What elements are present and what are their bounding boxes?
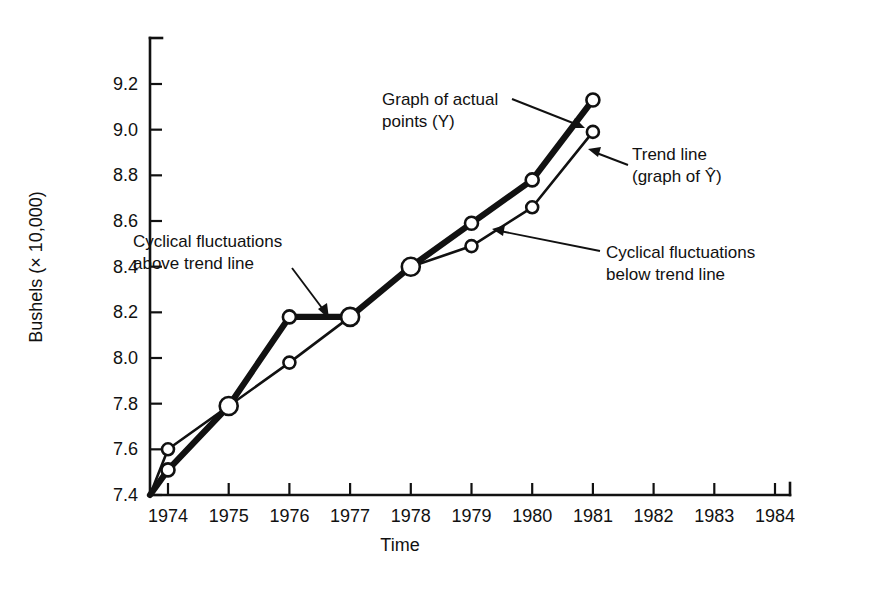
trend-point-marker — [466, 240, 478, 252]
actual-points-series — [150, 100, 593, 495]
trend-point-marker — [587, 126, 599, 138]
annotation-cyclical-above: Cyclical fluctuations above trend line — [133, 232, 329, 319]
annotation-cyclical-below-line1: Cyclical fluctuations — [606, 243, 755, 262]
chart-figure: 7.47.67.88.08.28.48.68.89.09.2 197419751… — [0, 0, 870, 598]
y-axis-title: Bushels (× 10,000) — [26, 191, 46, 343]
x-tick-label: 1981 — [573, 506, 613, 526]
y-tick-label: 8.0 — [113, 348, 138, 368]
x-tick-label: 1977 — [330, 506, 370, 526]
x-tick-label: 1978 — [391, 506, 431, 526]
actual-point-marker — [283, 310, 296, 323]
y-tick-label: 8.2 — [113, 302, 138, 322]
annotation-cyclical-below-leader — [500, 231, 600, 251]
trend-point-marker — [162, 443, 174, 455]
x-axis-title: Time — [380, 535, 419, 555]
y-axis-ticks: 7.47.67.88.08.28.48.68.89.09.2 — [113, 74, 162, 505]
trend-point-marker — [526, 201, 538, 213]
annotation-cyclical-above-line1: Cyclical fluctuations — [133, 232, 282, 251]
annotation-trend-line-line2: (graph of Ŷ) — [632, 167, 722, 186]
x-tick-label: 1984 — [755, 506, 795, 526]
actual-point-marker — [586, 94, 599, 107]
data-series-layer — [150, 94, 599, 496]
annotation-graph-of-actual: Graph of actual points (Y) — [382, 90, 585, 131]
annotation-trend-line-line1: Trend line — [632, 145, 707, 164]
actual-point-marker — [526, 173, 539, 186]
annotation-cyclical-above-leader — [292, 268, 325, 312]
annotation-trend-line-arrowhead — [588, 147, 601, 157]
data-point-markers — [162, 94, 600, 477]
actual-point-marker — [341, 308, 359, 326]
x-tick-label: 1975 — [209, 506, 249, 526]
annotation-trend-line-leader — [594, 152, 628, 165]
annotation-cyclical-above-line2: above trend line — [133, 254, 254, 273]
y-tick-label: 7.4 — [113, 485, 138, 505]
actual-point-marker — [220, 397, 238, 415]
actual-point-marker — [162, 463, 175, 476]
annotation-trend-line: Trend line (graph of Ŷ) — [588, 145, 722, 186]
x-tick-label: 1982 — [634, 506, 674, 526]
actual-point-marker — [465, 217, 478, 230]
annotation-graph-of-actual-line2: points (Y) — [382, 112, 455, 131]
annotation-cyclical-below: Cyclical fluctuations below trend line — [492, 225, 755, 284]
y-tick-label: 9.0 — [113, 120, 138, 140]
actual-point-marker — [402, 258, 420, 276]
x-tick-label: 1976 — [269, 506, 309, 526]
x-tick-label: 1974 — [148, 506, 188, 526]
y-tick-label: 7.6 — [113, 439, 138, 459]
annotation-graph-of-actual-leader — [512, 99, 578, 125]
y-tick-label: 7.8 — [113, 394, 138, 414]
y-tick-label: 8.8 — [113, 165, 138, 185]
x-tick-label: 1983 — [694, 506, 734, 526]
trend-point-marker — [283, 357, 295, 369]
y-tick-label: 8.6 — [113, 211, 138, 231]
x-tick-label: 1980 — [512, 506, 552, 526]
annotation-graph-of-actual-line1: Graph of actual — [382, 90, 498, 109]
x-axis-ticks: 1974197519761977197819791980198119821983… — [148, 483, 795, 526]
y-tick-label: 9.2 — [113, 74, 138, 94]
x-tick-label: 1979 — [451, 506, 491, 526]
annotation-cyclical-below-line2: below trend line — [606, 265, 725, 284]
time-series-chart: 7.47.67.88.08.28.48.68.89.09.2 197419751… — [0, 0, 870, 598]
